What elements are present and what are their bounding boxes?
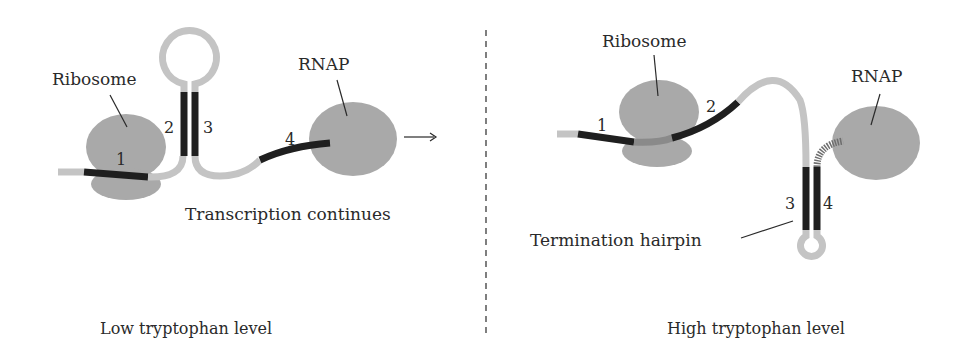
left-strand-link-3-4 xyxy=(195,156,260,176)
right-strand-link-2-3 xyxy=(738,80,806,167)
transcription-continues-label: Transcription continues xyxy=(185,204,391,224)
right-segment-4-label: 4 xyxy=(823,194,833,213)
left-segment-4-label: 4 xyxy=(285,130,295,149)
right-rnap xyxy=(832,106,920,180)
right-arrow-icon xyxy=(404,133,436,141)
left-panel: Ribosome RNAP 1 2 3 4 Transcription cont… xyxy=(52,31,436,338)
right-segment-1-label: 1 xyxy=(597,116,607,135)
left-ribosome-label: Ribosome xyxy=(52,69,137,89)
trp-attenuation-diagram: Ribosome RNAP 1 2 3 4 Transcription cont… xyxy=(0,0,959,360)
left-antiterminator-loop xyxy=(163,31,217,92)
hairpin-callout xyxy=(741,221,793,238)
left-rnap xyxy=(309,102,397,176)
terminator-hairpin-loop xyxy=(801,230,823,257)
right-panel: Ribosome RNAP 1 2 3 4 Termination hairpi… xyxy=(530,31,920,338)
left-caption: Low tryptophan level xyxy=(100,319,272,338)
left-segment-2-label: 2 xyxy=(164,118,174,137)
left-segment-3-label: 3 xyxy=(203,118,213,137)
right-segment-3-label: 3 xyxy=(785,194,795,213)
right-rnap-label: RNAP xyxy=(851,66,902,86)
termination-hairpin-label: Termination hairpin xyxy=(530,230,702,250)
right-segment-2-label: 2 xyxy=(706,97,716,116)
right-segment-1 xyxy=(578,134,634,142)
right-ribosome-label: Ribosome xyxy=(602,31,687,51)
right-caption: High tryptophan level xyxy=(667,319,845,338)
left-rnap-label: RNAP xyxy=(298,54,349,74)
left-segment-1 xyxy=(84,172,148,177)
left-segment-1-label: 1 xyxy=(116,150,126,169)
